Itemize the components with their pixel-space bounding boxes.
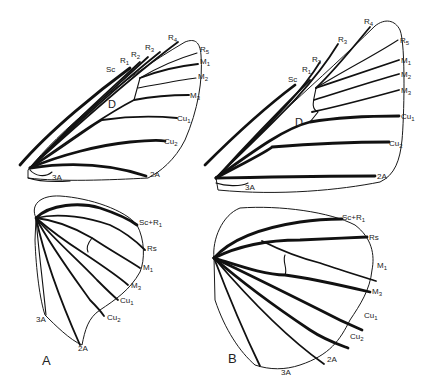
label-r4: R4 [364, 17, 374, 27]
label-discal-cell: D [108, 98, 116, 110]
discal-crossvein [284, 255, 286, 275]
label-m1: M1 [377, 261, 388, 271]
discal-crossvein [87, 238, 92, 252]
label-sc-r1: Sc+R1 [139, 218, 163, 228]
label-cu2: Cu2 [389, 139, 403, 149]
label-2a: 2A [150, 170, 160, 179]
label-r3: R3 [338, 35, 348, 45]
figure-svg: Sc R1 R2 R3 R4 R5 M1 M2 M3 Cu1 Cu2 2A 3A… [0, 0, 425, 386]
label-rs: Rs [147, 244, 157, 253]
vein-sc [20, 68, 130, 165]
vein-m3 [214, 258, 370, 292]
label-r2: R2 [131, 50, 141, 60]
label-2a: 2A [78, 344, 88, 353]
label-cu2: Cu2 [350, 332, 364, 342]
panel-a-forewing: Sc R1 R2 R3 R4 R5 M1 M2 M3 Cu1 Cu2 2A 3A… [20, 33, 211, 182]
vein-r4 [30, 42, 178, 168]
label-cu1: Cu1 [177, 114, 191, 124]
panel-a-hindwing: Sc+R1 Rs M1 M3 Cu1 Cu2 2A 3A A [34, 196, 163, 368]
label-m3: M3 [401, 86, 412, 96]
panel-label-b: B [228, 351, 237, 366]
label-2a: 2A [327, 355, 337, 364]
label-sc: Sc [288, 75, 297, 84]
vein-cu1 [216, 116, 399, 178]
discal-crossvein [310, 88, 318, 122]
label-m1: M1 [143, 263, 154, 273]
vein-3a [216, 183, 248, 186]
forewing-b-outline [216, 21, 404, 192]
label-r5: R5 [200, 45, 210, 55]
label-m2: M2 [198, 72, 209, 82]
label-3a: 3A [36, 315, 46, 324]
label-sc: Sc [106, 65, 115, 74]
label-r1: R1 [302, 65, 312, 75]
label-m3: M3 [372, 287, 383, 297]
panel-b-hindwing: Sc+R1 Rs M1 M3 Cu1 Cu2 2A 3A B [214, 207, 388, 377]
discal-crossvein [134, 78, 140, 100]
vein-m2 [138, 78, 196, 88]
label-m2: M2 [401, 70, 412, 80]
vein-cu2 [214, 258, 348, 348]
label-cu2: Cu2 [107, 313, 121, 323]
wing-venation-figure: Sc R1 R2 R3 R4 R5 M1 M2 M3 Cu1 Cu2 2A 3A… [0, 0, 425, 386]
label-cu1: Cu1 [401, 112, 415, 122]
label-2a: 2A [377, 172, 387, 181]
label-cu2: Cu2 [164, 137, 178, 147]
label-m1: M1 [200, 57, 211, 67]
vein-m1 [140, 64, 198, 78]
vein-m3 [312, 90, 399, 112]
label-rs: Rs [369, 233, 379, 242]
vein-2a [216, 176, 375, 178]
vein-3a [214, 258, 260, 366]
label-3a: 3A [245, 183, 255, 192]
label-sc-r1: Sc+R1 [342, 213, 366, 223]
label-m1: M1 [401, 56, 412, 66]
label-r2: R2 [312, 55, 322, 65]
label-discal-cell: D [295, 116, 303, 128]
panel-label-a: A [42, 353, 51, 368]
vein-3a [30, 170, 52, 176]
panel-b-forewing: Sc R1 R2 R3 R4 R5 M1 M2 M3 Cu1 Cu2 2A 3A… [205, 17, 415, 192]
label-r4: R4 [168, 33, 178, 43]
vein-cu2 [36, 218, 104, 316]
label-cu1: Cu1 [364, 311, 378, 321]
label-r3: R3 [145, 43, 155, 53]
label-3a: 3A [281, 368, 291, 377]
label-r5: R5 [400, 36, 410, 46]
label-m3: M3 [131, 281, 142, 291]
label-3a: 3A [52, 173, 62, 182]
label-r1: R1 [120, 56, 130, 66]
label-cu1: Cu1 [120, 296, 134, 306]
